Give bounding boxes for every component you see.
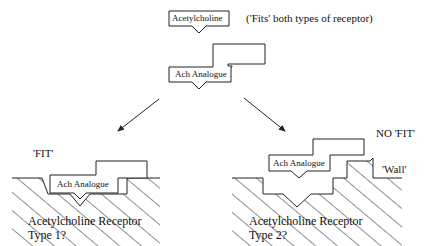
diagram-canvas (0, 0, 424, 246)
no-fit-status-label: NO 'FIT' (376, 128, 415, 139)
ach-analogue-shape-middle (169, 44, 265, 89)
fits-note: ('Fits' both types of receptor) (246, 13, 373, 24)
arrow-left (118, 99, 159, 131)
fit-status-label: 'FIT' (33, 148, 53, 159)
receptor-type2-label: Acetylcholine Receptor (249, 215, 363, 227)
arrow-right (244, 98, 285, 131)
receptor-type2-type: Type 2? (249, 229, 287, 241)
ach-analogue-label-left: Ach Analogue (57, 180, 109, 189)
wall-label: 'Wall' (382, 164, 406, 175)
receptor-type1-label: Acetylcholine Receptor (28, 215, 142, 227)
receptor-type1-type: Type 1? (28, 229, 66, 241)
ach-analogue-label-right: Ach Analogue (273, 159, 325, 168)
ach-analogue-label-middle: Ach Analogue (175, 70, 227, 79)
acetylcholine-label: Acetylcholine (172, 14, 222, 23)
